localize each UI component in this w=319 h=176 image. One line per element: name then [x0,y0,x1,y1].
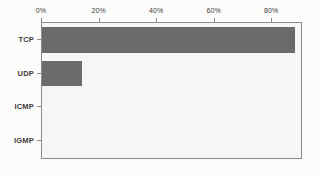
x-tick-label-3: 60% [207,7,221,14]
y-tick-igmp [37,140,41,141]
x-tick-1 [99,18,100,22]
x-tick-2 [156,18,157,22]
y-tick-icmp [37,106,41,107]
x-tick-label-1: 20% [91,7,105,14]
bars-layer [42,23,301,158]
y-tick-label-tcp: TCP [18,34,34,43]
x-tick-label-2: 40% [149,7,163,14]
x-tick-4 [271,18,272,22]
x-tick-3 [214,18,215,22]
y-tick-udp [37,73,41,74]
y-tick-label-udp: UDP [18,68,34,77]
x-tick-label-4: 80% [264,7,278,14]
bar-tcp[interactable] [42,27,295,53]
y-tick-tcp [37,39,41,40]
bar-udp[interactable] [42,61,82,87]
x-tick-0 [41,18,42,22]
y-tick-label-icmp: ICMP [14,102,34,111]
y-tick-label-igmp: IGMP [14,136,34,145]
bar-chart: 0% 20% 40% 60% 80% TCP UDP ICMP IGMP [0,0,319,176]
x-tick-label-0: 0% [36,7,46,14]
